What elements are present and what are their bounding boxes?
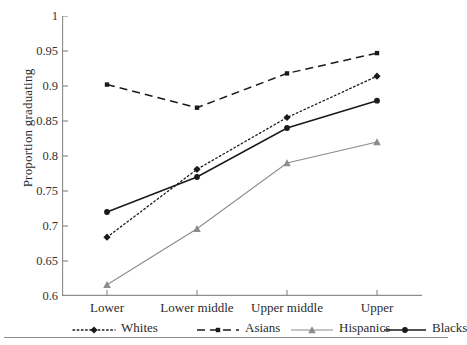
y-axis-tick-label: 0.8 (42, 149, 58, 164)
plot-svg (62, 16, 422, 296)
legend-sample (196, 322, 240, 334)
square-marker (195, 106, 199, 110)
x-axis-tick-label: Lower (90, 300, 124, 316)
diamond-marker (283, 114, 290, 121)
y-axis-tick-label: 0.6 (42, 289, 58, 304)
series-hispanics (103, 138, 381, 288)
legend-item-blacks[interactable]: Blacks (383, 320, 467, 336)
circle-marker (194, 174, 200, 180)
x-axis-tick-label: Upper (361, 300, 394, 316)
series-blacks (104, 98, 380, 215)
legend-label: Blacks (432, 320, 467, 336)
series-line (107, 142, 377, 285)
triangle-marker (193, 225, 201, 232)
legend-label: Whites (121, 320, 158, 336)
y-axis-tick-label: 0.75 (36, 184, 58, 199)
y-axis-tick-label: 1 (52, 9, 58, 24)
square-marker (216, 328, 220, 332)
diamond-marker (373, 73, 380, 80)
legend-item-asians[interactable]: Asians (196, 320, 280, 336)
square-marker (375, 51, 379, 55)
legend-item-whites[interactable]: Whites (72, 320, 158, 336)
y-axis-tick-label: 0.7 (42, 219, 58, 234)
series-line (107, 53, 377, 108)
series-asians (105, 51, 379, 110)
x-axis-tick-label: Lower middle (160, 300, 233, 316)
y-axis-tick-label: 0.85 (36, 114, 58, 129)
series-whites (103, 73, 380, 241)
legend-label: Asians (245, 320, 280, 336)
triangle-marker (373, 138, 381, 145)
circle-marker (284, 125, 290, 131)
legend-sample (383, 322, 427, 334)
x-axis-tick-label: Upper middle (251, 300, 323, 316)
square-marker (285, 71, 289, 75)
triangle-marker (103, 281, 111, 288)
legend-sample (290, 322, 334, 334)
diamond-marker (90, 326, 97, 333)
y-axis-tick-label: 0.9 (42, 79, 58, 94)
legend-item-hispanics[interactable]: Hispanics (290, 320, 390, 336)
series-line (107, 76, 377, 237)
chart-legend: WhitesAsiansHispanicsBlacks (0, 318, 452, 338)
diamond-marker (103, 234, 110, 241)
circle-marker (374, 98, 380, 104)
y-axis-tick-label: 0.95 (36, 44, 58, 59)
plot-area (62, 16, 422, 296)
bottom-divider (4, 337, 448, 338)
legend-sample (72, 322, 116, 334)
circle-marker (104, 209, 110, 215)
circle-marker (402, 327, 408, 333)
x-axis-tick-labels: LowerLower middleUpper middleUpper (62, 296, 422, 318)
y-axis-tick-label: 0.65 (36, 254, 58, 269)
y-axis-tick-labels: 10.950.90.850.80.750.70.650.6 (0, 16, 58, 296)
square-marker (105, 82, 109, 86)
